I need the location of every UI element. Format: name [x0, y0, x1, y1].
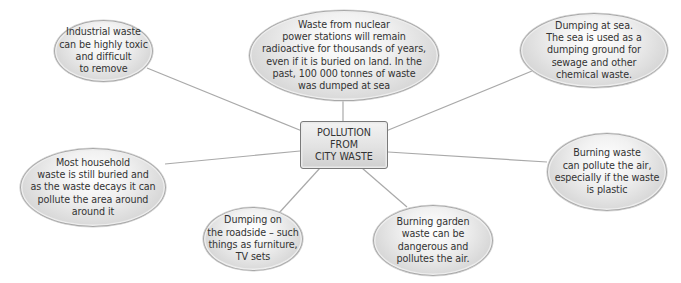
link-roadside — [279, 168, 320, 213]
node-household-waste: Most household waste is still buried and… — [20, 148, 166, 227]
node-text: Industrial waste can be highly toxic and… — [59, 26, 148, 75]
node-burning-waste: Burning waste can pollute the air, espec… — [547, 133, 667, 211]
center-topic-label: POLLUTION FROM CITY WASTE — [315, 127, 373, 164]
node-text: Most household waste is still buried and… — [30, 157, 155, 218]
node-text: Dumping on the roadside – such things as… — [207, 214, 298, 263]
node-nuclear-waste: Waste from nuclear power stations will r… — [249, 10, 439, 101]
node-burning-garden-waste: Burning garden waste can be dangerous an… — [373, 205, 493, 276]
node-text: Burning garden waste can be dangerous an… — [397, 216, 470, 265]
node-roadside-dumping: Dumping on the roadside – such things as… — [203, 207, 303, 271]
node-text: Burning waste can pollute the air, espec… — [555, 147, 660, 196]
node-text: Waste from nuclear power stations will r… — [262, 19, 426, 93]
node-industrial-waste: Industrial waste can be highly toxic and… — [54, 20, 153, 82]
link-garden — [362, 168, 407, 207]
link-burning — [388, 152, 547, 162]
node-dumping-at-sea: Dumping at sea. The sea is used as a dum… — [520, 13, 668, 88]
node-text: Dumping at sea. The sea is used as a dum… — [546, 20, 641, 81]
center-topic-box: POLLUTION FROM CITY WASTE — [300, 121, 388, 169]
link-household — [165, 151, 300, 164]
